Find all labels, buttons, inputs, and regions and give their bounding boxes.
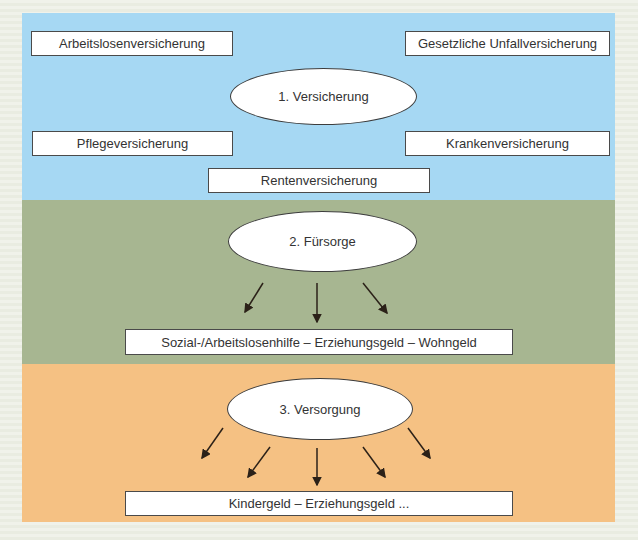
box-pflegeversicherung: Pflegeversicherung — [32, 131, 233, 156]
ellipse-versorgung-label: 3. Versorgung — [280, 402, 361, 417]
social-security-diagram: Arbeitslosenversicherung Gesetzliche Unf… — [22, 13, 615, 522]
ellipse-versicherung: 1. Versicherung — [230, 68, 417, 125]
page-background: Arbeitslosenversicherung Gesetzliche Unf… — [0, 0, 638, 540]
box-fuersorge-leistungen: Sozial-/Arbeitslosenhilfe – Erziehungsge… — [125, 329, 513, 355]
box-versorgung-leistungen: Kindergeld – Erziehungsgeld ... — [125, 491, 513, 516]
ellipse-fuersorge: 2. Fürsorge — [228, 211, 417, 272]
box-pflegeversicherung-label: Pflegeversicherung — [77, 137, 188, 150]
box-gesetzliche-unfallversicherung: Gesetzliche Unfallversicherung — [405, 31, 610, 56]
box-versorgung-leistungen-label: Kindergeld – Erziehungsgeld ... — [229, 497, 410, 510]
box-arbeitslosenversicherung-label: Arbeitslosenversicherung — [59, 37, 205, 50]
box-krankenversicherung-label: Krankenversicherung — [446, 137, 569, 150]
ellipse-fuersorge-label: 2. Fürsorge — [289, 234, 355, 249]
ellipse-versorgung: 3. Versorgung — [227, 378, 413, 440]
box-arbeitslosenversicherung: Arbeitslosenversicherung — [31, 31, 233, 56]
box-gesetzliche-unfallversicherung-label: Gesetzliche Unfallversicherung — [418, 37, 597, 50]
box-fuersorge-leistungen-label: Sozial-/Arbeitslosenhilfe – Erziehungsge… — [161, 336, 477, 349]
ellipse-versicherung-label: 1. Versicherung — [278, 89, 368, 104]
box-krankenversicherung: Krankenversicherung — [405, 131, 610, 156]
box-rentenversicherung-label: Rentenversicherung — [261, 174, 377, 187]
box-rentenversicherung: Rentenversicherung — [208, 168, 430, 193]
